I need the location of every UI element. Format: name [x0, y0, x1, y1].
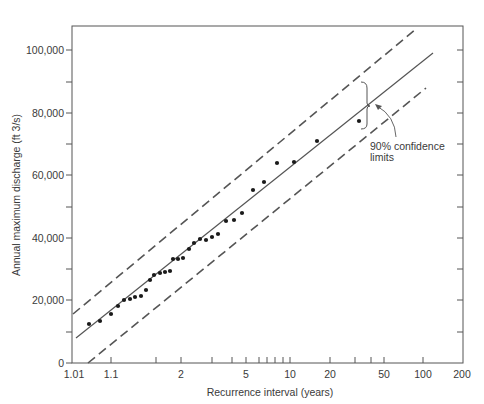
confidence-bracket-icon [361, 82, 370, 129]
data-points [87, 119, 361, 326]
data-point [357, 119, 361, 123]
data-point [232, 218, 236, 222]
data-point [204, 238, 208, 242]
x-axis-labels: 1.01 1.1 2 5 10 20 50 100 200 [64, 368, 471, 380]
annotation-text-line2: limits [370, 151, 394, 163]
data-point [262, 180, 266, 184]
data-point [171, 257, 175, 261]
data-point [109, 312, 113, 316]
x-tick-label: 100 [414, 368, 432, 380]
data-point [168, 269, 172, 273]
data-point [210, 235, 214, 239]
data-point [144, 288, 148, 292]
data-point [251, 188, 255, 192]
data-point [187, 247, 191, 251]
y-tick-label: 40,000 [32, 232, 64, 244]
data-point [198, 237, 202, 241]
data-point [87, 322, 91, 326]
data-point [176, 257, 180, 261]
data-point [158, 271, 162, 275]
y-axis-ticks [66, 50, 72, 363]
data-point [315, 139, 319, 143]
data-point [152, 273, 156, 277]
data-point [192, 241, 196, 245]
data-point [216, 232, 220, 236]
data-point [116, 304, 120, 308]
data-point [181, 256, 185, 260]
y-axis-ticks-right [457, 50, 463, 332]
data-point [148, 278, 152, 282]
data-point [139, 294, 143, 298]
x-tick-label: 10 [284, 368, 296, 380]
x-tick-label: 20 [324, 368, 336, 380]
fitted-line [76, 53, 433, 338]
x-tick-label: 50 [378, 368, 390, 380]
data-point [163, 270, 167, 274]
annotation-arrow-icon [377, 106, 396, 137]
x-tick-label: 1.1 [104, 368, 119, 380]
y-tick-label: 100,000 [26, 44, 64, 56]
x-tick-label: 1.01 [64, 368, 85, 380]
data-point [240, 211, 244, 215]
lower-confidence-line [88, 88, 426, 363]
x-tick-label: 2 [178, 368, 184, 380]
x-axis-title: Recurrence interval (years) [207, 386, 334, 398]
data-point [122, 298, 126, 302]
data-point [292, 160, 296, 164]
data-point [133, 295, 137, 299]
x-tick-label: 5 [243, 368, 249, 380]
y-axis-labels: 0 20,000 40,000 60,000 80,000 100,000 [26, 44, 64, 369]
data-point [275, 161, 279, 165]
data-point [98, 319, 102, 323]
y-axis-title: Annual maximum discharge (ft 3/s) [10, 114, 22, 276]
y-tick-label: 20,000 [32, 294, 64, 306]
upper-confidence-line [73, 29, 416, 314]
data-point [224, 219, 228, 223]
data-point [128, 297, 132, 301]
x-tick-label: 200 [453, 368, 471, 380]
frequency-chart: 0 20,000 40,000 60,000 80,000 100,000 An… [0, 0, 484, 404]
arrow-head-icon [375, 104, 382, 110]
y-tick-label: 60,000 [32, 169, 64, 181]
x-axis-ticks [111, 357, 423, 363]
y-tick-label: 80,000 [32, 107, 64, 119]
